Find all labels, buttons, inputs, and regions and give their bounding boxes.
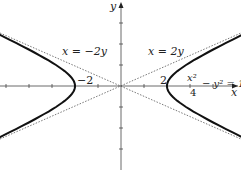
- y-axis-label: y: [110, 1, 116, 12]
- asymptote-neg-label: x = −2y: [62, 46, 107, 57]
- equation-rest: − y² = 1: [202, 79, 241, 89]
- tick-label-pos2: 2: [160, 75, 167, 86]
- hyperbola-graph: y x x = −2y x = 2y −2 2 x² 4 − y² = 1: [0, 0, 241, 170]
- asymptote-pos-label: x = 2y: [148, 46, 184, 57]
- equation-numerator: x²: [187, 73, 197, 83]
- hyperbola-left-branch: [0, 0, 75, 170]
- tick-label-neg2: −2: [77, 75, 93, 86]
- equation-denominator: 4: [190, 88, 196, 98]
- y-axis-arrow-icon: [119, 2, 124, 8]
